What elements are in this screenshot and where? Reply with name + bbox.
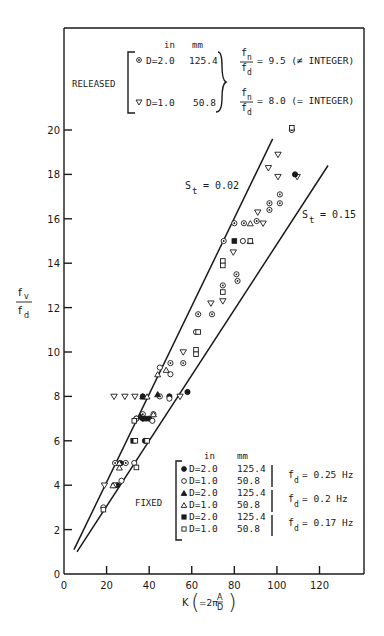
marker-circle-open	[157, 365, 162, 370]
svg-text:50.8: 50.8	[237, 475, 260, 486]
y-tick-label: 18	[47, 169, 60, 180]
released-marker-triangle-down	[136, 100, 142, 105]
marker-circle-dot	[196, 312, 201, 317]
svg-text:d: d	[294, 500, 299, 509]
fixed-legend-row: D=2.0125.4	[182, 511, 266, 522]
marker-triangle-down	[132, 394, 138, 399]
marker-circle-dot	[123, 460, 128, 465]
marker-circle-open	[167, 396, 172, 401]
marker-square-open	[101, 507, 106, 512]
svg-text:D=1.0: D=1.0	[146, 97, 175, 108]
svg-text:= 8.0 (= INTEGER): = 8.0 (= INTEGER)	[257, 95, 354, 106]
marker-circle-dot	[267, 207, 272, 212]
svg-text:FIXED: FIXED	[135, 498, 162, 508]
legend-released: RELEASED in mm D=2.0 125.4 D=1.0 50.8 f …	[72, 40, 354, 117]
marker-triangle-down	[275, 174, 281, 179]
svg-text:K: K	[182, 597, 189, 608]
marker-circle-dot	[221, 238, 226, 243]
marker-square-filled	[182, 515, 186, 519]
marker-circle-dot	[220, 283, 225, 288]
x-tick-label: 100	[267, 580, 286, 591]
strouhal-scatter-chart: 020406080100120 02468101214161820 f v f …	[0, 0, 384, 636]
marker-triangle-open	[163, 367, 169, 372]
svg-text:f: f	[18, 286, 23, 299]
y-axis-label: f v f d	[16, 286, 32, 320]
x-axis-ticks: 020406080100120	[61, 566, 329, 591]
marker-circle-dot	[137, 58, 142, 63]
series-square-open	[101, 125, 294, 511]
svg-text:): )	[228, 589, 237, 614]
svg-text:= 0.02: = 0.02	[203, 180, 239, 191]
svg-text:in: in	[164, 40, 175, 50]
y-tick-label: 2	[54, 525, 60, 536]
y-tick-label: 16	[47, 214, 60, 225]
marker-circle-dot	[267, 201, 272, 206]
marker-triangle-down	[136, 100, 142, 105]
marker-circle-dot	[241, 221, 246, 226]
svg-text:d: d	[24, 311, 29, 320]
fixed-legend-row: D=2.0125.4	[181, 487, 266, 498]
released-marker-circle-dot	[137, 58, 142, 63]
fixed-legend-row: D=1.050.8	[182, 475, 261, 486]
marker-circle-filled	[185, 389, 190, 394]
marker-circle-dot	[277, 192, 282, 197]
svg-text:= 0.15: = 0.15	[320, 209, 356, 220]
fixed-freq-2: f d = 0.2 Hz	[288, 493, 348, 509]
marker-triangle-down	[255, 210, 261, 215]
svg-text:50.8: 50.8	[193, 97, 216, 108]
legend-fixed: FIXED in mm D=2.0125.4D=1.050.8D=2.0125.…	[135, 451, 353, 540]
released-ratio-1: f n f d = 9.5 (≠ INTEGER)	[240, 47, 354, 77]
svg-text:t: t	[309, 215, 314, 225]
marker-circle-filled	[182, 467, 187, 472]
marker-circle-dot	[254, 218, 259, 223]
fixed-freq-3: f d = 0.17 Hz	[288, 517, 353, 533]
svg-text:S: S	[185, 180, 191, 191]
x-tick-label: 120	[310, 580, 329, 591]
series-triangle-open	[110, 221, 253, 488]
svg-text:125.4: 125.4	[237, 463, 266, 474]
svg-text:n: n	[247, 93, 252, 102]
marker-circle-dot	[235, 278, 240, 283]
marker-square-open	[290, 125, 295, 130]
svg-text:125.4: 125.4	[237, 511, 266, 522]
svg-text:D=2.0: D=2.0	[189, 511, 218, 522]
marker-triangle-open	[181, 503, 187, 508]
marker-triangle-filled	[181, 491, 187, 496]
svg-text:v: v	[24, 292, 29, 301]
svg-text:125.4: 125.4	[237, 487, 266, 498]
marker-circle-open	[119, 478, 124, 483]
y-tick-label: 8	[54, 391, 60, 402]
svg-text:= 9.5 (≠ INTEGER): = 9.5 (≠ INTEGER)	[257, 55, 354, 66]
marker-square-filled	[143, 416, 148, 421]
y-tick-label: 6	[54, 436, 60, 447]
svg-text:D=1.0: D=1.0	[189, 475, 218, 486]
svg-text:S: S	[302, 209, 308, 220]
y-tick-label: 0	[54, 569, 60, 580]
y-tick-label: 4	[54, 480, 60, 491]
data-points	[101, 125, 301, 511]
marker-circle-open	[150, 418, 155, 423]
series-circle-open	[101, 238, 246, 510]
fixed-freq-1: f d = 0.25 Hz	[288, 469, 353, 485]
marker-square-open	[221, 259, 226, 264]
marker-triangle-down	[265, 166, 271, 171]
marker-circle-dot	[234, 272, 239, 277]
marker-circle-dot	[181, 361, 186, 366]
marker-square-open	[196, 330, 201, 335]
x-tick-label: 40	[143, 580, 156, 591]
marker-triangle-down	[101, 483, 107, 488]
marker-square-open	[194, 347, 199, 352]
st-0.15-label: S t = 0.15	[302, 209, 356, 225]
x-tick-label: 0	[61, 580, 67, 591]
marker-triangle-down	[275, 152, 281, 157]
svg-text:D=2.0: D=2.0	[189, 487, 218, 498]
marker-triangle-down	[111, 394, 117, 399]
marker-circle-open	[240, 238, 245, 243]
marker-square-open	[221, 290, 226, 295]
fixed-legend-row: D=1.050.8	[181, 499, 260, 510]
marker-triangle-down	[208, 301, 214, 306]
svg-text:d: d	[294, 524, 299, 533]
marker-square-open	[221, 263, 226, 268]
svg-text:D=1.0: D=1.0	[189, 523, 218, 534]
fixed-legend-row: D=1.050.8	[182, 523, 260, 534]
